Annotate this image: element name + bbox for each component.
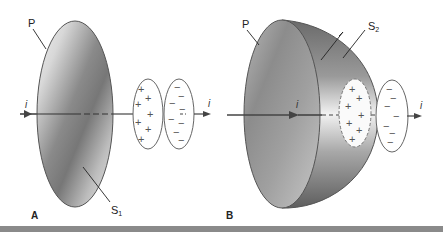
svg-text:−: − [168,113,174,125]
svg-text:−: − [178,90,184,102]
svg-text:−: − [387,136,393,148]
panel-label-b: B [226,210,233,221]
capacitor-ampere-law-diagram: + + + + + + + − − − − − − − − i i P S1 [0,0,443,226]
svg-text:+: + [135,116,141,128]
current-label-out-b: i [420,100,423,111]
plane-label-b: P [242,18,249,30]
current-label-in-a: i [25,99,28,110]
surface-label-a: S1 [111,204,122,217]
plane-p-b [244,20,320,208]
svg-text:+: + [145,123,151,135]
panel-a: + + + + + + + − − − − − − − − i i P S1 [20,17,211,221]
svg-text:+: + [138,83,144,95]
plane-label-a: P [28,17,35,29]
bottom-border-bar [0,226,443,232]
svg-text:−: − [384,100,390,112]
svg-text:−: − [390,92,396,104]
svg-text:−: − [169,97,175,109]
plane-leader-a [33,29,46,49]
surface-label-b: S2 [368,20,379,33]
svg-text:−: − [393,110,399,122]
svg-text:+: + [145,92,151,104]
svg-text:+: + [138,133,144,145]
svg-text:+: + [358,109,364,121]
svg-text:+: + [346,117,352,129]
svg-text:−: − [178,134,184,146]
panel-b: + + + + + + + − − − − − − − i i P S2 [226,18,423,221]
plane-leader-b [247,30,259,45]
svg-text:+: + [345,100,351,112]
svg-text:+: + [147,108,153,120]
svg-text:+: + [349,133,355,145]
panel-label-a: A [31,210,38,221]
svg-text:+: + [349,83,355,95]
svg-text:+: + [356,92,362,104]
current-arrow-icon [414,113,422,119]
svg-text:−: − [179,103,185,115]
svg-text:+: + [135,98,141,110]
svg-text:+: + [356,124,362,136]
current-arrow-icon [24,110,32,118]
current-arrow-icon [203,111,211,117]
current-label-out-a: i [208,98,211,109]
